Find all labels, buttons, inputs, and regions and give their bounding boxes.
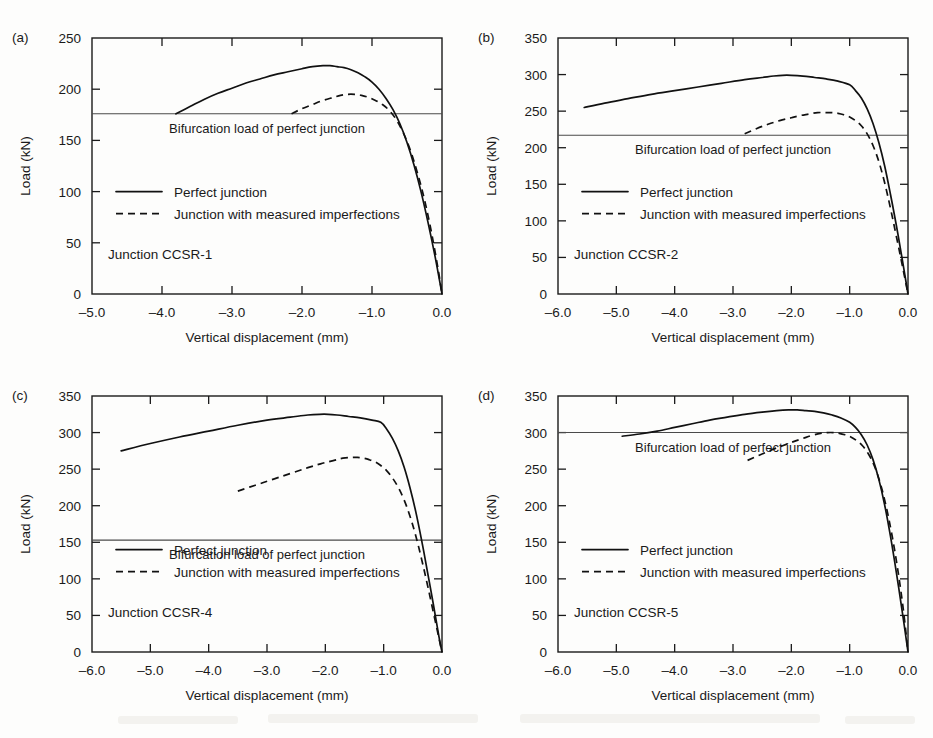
curve-imperfect-junction <box>745 112 908 294</box>
x-axis-title: Vertical displacement (mm) <box>652 688 815 703</box>
case-label: Junction CCSR-4 <box>108 605 213 620</box>
y-tick-label: 300 <box>58 426 81 441</box>
chart-a: (a)050100150200250–5.0–4.0–3.0–2.0–1.00.… <box>0 0 466 380</box>
x-tick-label: –3.0 <box>720 305 746 320</box>
case-label: Junction CCSR-5 <box>574 605 678 620</box>
y-axis-title: Load (kN) <box>18 494 33 553</box>
legend-label: Perfect junction <box>174 543 267 558</box>
figure-load-displacement-curves: (a)050100150200250–5.0–4.0–3.0–2.0–1.00.… <box>0 0 933 738</box>
x-tick-label: –6.0 <box>545 305 571 320</box>
x-tick-label: –4.0 <box>662 663 688 678</box>
x-tick-label: –1.0 <box>837 663 863 678</box>
x-tick-label: –5.0 <box>137 663 163 678</box>
y-tick-label: 150 <box>58 133 81 148</box>
x-tick-label: –5.0 <box>79 305 105 320</box>
panel-letter: (c) <box>12 388 28 403</box>
x-tick-label: –2.0 <box>289 305 315 320</box>
y-tick-label: 100 <box>524 572 547 587</box>
x-axis-title: Vertical displacement (mm) <box>186 688 349 703</box>
legend-label: Junction with measured imperfections <box>640 207 866 222</box>
x-tick-label: –2.0 <box>312 663 338 678</box>
panel-letter: (b) <box>478 30 495 45</box>
legend-label: Perfect junction <box>640 543 733 558</box>
bifurcation-annotation: Bifurcation load of perfect junction <box>635 440 831 455</box>
y-tick-label: 50 <box>66 236 81 251</box>
y-tick-label: 300 <box>524 68 547 83</box>
legend-label: Junction with measured imperfections <box>174 565 400 580</box>
x-tick-label: 0.0 <box>433 305 452 320</box>
x-tick-label: –4.0 <box>149 305 175 320</box>
x-tick-label: –6.0 <box>79 663 105 678</box>
panel-c: (c)050100150200250300350–6.0–5.0–4.0–3.0… <box>0 358 466 738</box>
y-tick-label: 0 <box>539 287 547 302</box>
y-tick-label: 250 <box>524 104 547 119</box>
panel-a: (a)050100150200250–5.0–4.0–3.0–2.0–1.00.… <box>0 0 466 380</box>
legend-label: Junction with measured imperfections <box>640 565 866 580</box>
y-tick-label: 100 <box>58 185 81 200</box>
chart-d: (d)050100150200250300350–6.0–5.0–4.0–3.0… <box>466 358 932 738</box>
panel-letter: (d) <box>478 388 495 403</box>
y-tick-label: 50 <box>532 608 547 623</box>
x-tick-label: –3.0 <box>254 663 280 678</box>
y-tick-label: 0 <box>539 645 547 660</box>
bifurcation-annotation: Bifurcation load of perfect junction <box>169 121 365 136</box>
legend-label: Junction with measured imperfections <box>174 207 400 222</box>
y-tick-label: 250 <box>524 462 547 477</box>
panel-letter: (a) <box>12 30 29 45</box>
x-tick-label: 0.0 <box>899 663 918 678</box>
x-tick-label: –6.0 <box>545 663 571 678</box>
case-label: Junction CCSR-2 <box>574 247 678 262</box>
y-tick-label: 150 <box>524 535 547 550</box>
panel-b: (b)050100150200250300350–6.0–5.0–4.0–3.0… <box>466 0 932 380</box>
y-tick-label: 0 <box>73 287 81 302</box>
y-tick-label: 150 <box>524 177 547 192</box>
x-tick-label: –1.0 <box>359 305 385 320</box>
case-label: Junction CCSR-1 <box>108 247 212 262</box>
y-tick-label: 250 <box>58 31 81 46</box>
chart-b: (b)050100150200250300350–6.0–5.0–4.0–3.0… <box>466 0 932 380</box>
x-tick-label: –2.0 <box>778 305 804 320</box>
y-tick-label: 50 <box>532 250 547 265</box>
curve-perfect-junction <box>176 66 442 294</box>
chart-c: (c)050100150200250300350–6.0–5.0–4.0–3.0… <box>0 358 466 738</box>
x-tick-label: –2.0 <box>778 663 804 678</box>
y-tick-label: 250 <box>58 462 81 477</box>
x-tick-label: 0.0 <box>899 305 918 320</box>
y-tick-label: 300 <box>524 426 547 441</box>
x-tick-label: –5.0 <box>603 305 629 320</box>
x-tick-label: –5.0 <box>603 663 629 678</box>
y-tick-label: 50 <box>66 608 81 623</box>
y-axis-title: Load (kN) <box>484 136 499 195</box>
x-tick-label: –1.0 <box>837 305 863 320</box>
x-tick-label: –4.0 <box>196 663 222 678</box>
y-axis-title: Load (kN) <box>18 136 33 195</box>
panel-d: (d)050100150200250300350–6.0–5.0–4.0–3.0… <box>466 358 932 738</box>
x-tick-label: –3.0 <box>219 305 245 320</box>
x-tick-label: –1.0 <box>371 663 397 678</box>
curve-imperfect-junction <box>748 432 908 652</box>
y-tick-label: 200 <box>524 141 547 156</box>
y-tick-label: 0 <box>73 645 81 660</box>
y-tick-label: 200 <box>58 499 81 514</box>
x-tick-label: 0.0 <box>433 663 452 678</box>
x-tick-label: –3.0 <box>720 663 746 678</box>
x-tick-label: –4.0 <box>662 305 688 320</box>
y-tick-label: 200 <box>524 499 547 514</box>
x-axis-title: Vertical displacement (mm) <box>186 330 349 345</box>
bifurcation-annotation: Bifurcation load of perfect junction <box>635 142 831 157</box>
y-tick-label: 100 <box>524 214 547 229</box>
y-tick-label: 150 <box>58 535 81 550</box>
legend-label: Perfect junction <box>174 185 267 200</box>
y-tick-label: 200 <box>58 82 81 97</box>
legend-label: Perfect junction <box>640 185 733 200</box>
y-tick-label: 350 <box>524 31 547 46</box>
y-tick-label: 350 <box>58 389 81 404</box>
y-tick-label: 350 <box>524 389 547 404</box>
x-axis-title: Vertical displacement (mm) <box>652 330 815 345</box>
y-axis-title: Load (kN) <box>484 494 499 553</box>
y-tick-label: 100 <box>58 572 81 587</box>
